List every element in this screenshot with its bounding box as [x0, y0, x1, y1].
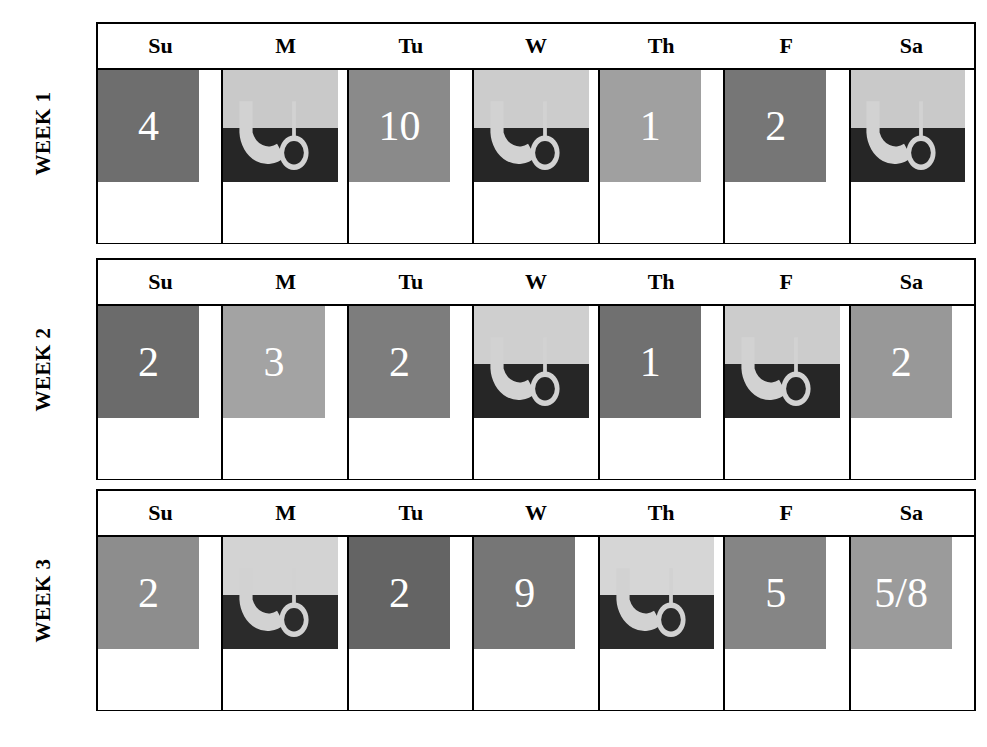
- week-label-text: WEEK 2: [30, 327, 55, 411]
- day-value: 5: [725, 537, 826, 649]
- day-swatch: 2: [98, 537, 199, 649]
- day-header-m: M: [223, 491, 348, 535]
- day-cell-sa[interactable]: [851, 70, 974, 243]
- moon-phase-glyph: [857, 99, 951, 177]
- day-value: 5/8: [851, 537, 952, 649]
- day-header-row: SuMTuWThFSa: [98, 491, 974, 537]
- day-header-m: M: [223, 24, 348, 68]
- day-cell-row: 232 1 2: [98, 306, 974, 479]
- day-swatch: 2: [851, 306, 952, 418]
- day-value: 2: [349, 537, 450, 649]
- day-swatch: 2: [725, 70, 826, 182]
- day-cell-su[interactable]: 4: [98, 70, 223, 243]
- day-header-w: W: [473, 491, 598, 535]
- day-cell-tu[interactable]: 10: [349, 70, 474, 243]
- day-swatch: 2: [349, 306, 450, 418]
- day-cell-su[interactable]: 2: [98, 306, 223, 479]
- day-header-th: Th: [599, 260, 724, 304]
- week-label: WEEK 2: [0, 258, 86, 480]
- day-swatch: 1: [600, 70, 701, 182]
- day-swatch: 5/8: [851, 537, 952, 649]
- day-header-sa: Sa: [849, 491, 974, 535]
- day-swatch: 1: [600, 306, 701, 418]
- moon-phase-icon: [851, 70, 966, 182]
- day-header-w: W: [473, 24, 598, 68]
- week-block: WEEK 2SuMTuWThFSa232 1 2: [0, 258, 987, 480]
- moon-phase-icon: [600, 537, 715, 649]
- day-value: 2: [98, 537, 199, 649]
- day-cell-m[interactable]: 3: [223, 306, 348, 479]
- moon-phase-icon: [223, 70, 338, 182]
- day-header-tu: Tu: [348, 24, 473, 68]
- day-swatch: 9: [474, 537, 575, 649]
- week-grid: SuMTuWThFSa232 1 2: [96, 258, 976, 480]
- day-header-f: F: [724, 24, 849, 68]
- day-header-su: Su: [98, 24, 223, 68]
- week-grid: SuMTuWThFSa2 29 55/8: [96, 489, 976, 711]
- day-value: 9: [474, 537, 575, 649]
- day-header-sa: Sa: [849, 260, 974, 304]
- day-header-w: W: [473, 260, 598, 304]
- day-cell-th[interactable]: [600, 537, 725, 710]
- moon-phase-glyph: [230, 99, 324, 177]
- moon-phase-icon: [725, 306, 840, 418]
- day-header-m: M: [223, 260, 348, 304]
- day-swatch: 2: [349, 537, 450, 649]
- moon-phase-icon: [474, 306, 589, 418]
- day-cell-w[interactable]: [474, 70, 599, 243]
- day-cell-w[interactable]: 9: [474, 537, 599, 710]
- week-block: WEEK 1SuMTuWThFSa4 10 12: [0, 22, 987, 244]
- day-cell-su[interactable]: 2: [98, 537, 223, 710]
- day-cell-w[interactable]: [474, 306, 599, 479]
- day-header-sa: Sa: [849, 24, 974, 68]
- day-cell-f[interactable]: 2: [725, 70, 850, 243]
- moon-phase-glyph: [481, 99, 575, 177]
- day-cell-th[interactable]: 1: [600, 70, 725, 243]
- day-header-th: Th: [599, 24, 724, 68]
- week-grid: SuMTuWThFSa4 10 12: [96, 22, 976, 244]
- day-cell-tu[interactable]: 2: [349, 537, 474, 710]
- day-cell-th[interactable]: 1: [600, 306, 725, 479]
- week-label: WEEK 1: [0, 22, 86, 244]
- day-swatch: 5: [725, 537, 826, 649]
- day-value: 1: [600, 70, 701, 182]
- day-swatch: 3: [223, 306, 324, 418]
- day-value: 2: [98, 306, 199, 418]
- day-value: 3: [223, 306, 324, 418]
- week-label-text: WEEK 1: [30, 91, 55, 175]
- moon-phase-icon: [474, 70, 589, 182]
- day-header-tu: Tu: [348, 260, 473, 304]
- day-value: 2: [725, 70, 826, 182]
- day-swatch: 4: [98, 70, 199, 182]
- day-value: 2: [349, 306, 450, 418]
- day-cell-tu[interactable]: 2: [349, 306, 474, 479]
- day-cell-m[interactable]: [223, 537, 348, 710]
- moon-phase-glyph: [230, 566, 324, 644]
- day-value: 2: [851, 306, 952, 418]
- day-cell-f[interactable]: [725, 306, 850, 479]
- figure-canvas: WEEK 1SuMTuWThFSa4 10 12 WEEK 2SuMTuWThF…: [0, 0, 987, 747]
- moon-phase-glyph: [732, 335, 826, 413]
- moon-phase-icon: [223, 537, 338, 649]
- day-cell-f[interactable]: 5: [725, 537, 850, 710]
- moon-phase-glyph: [481, 335, 575, 413]
- day-cell-row: 4 10 12: [98, 70, 974, 243]
- day-header-tu: Tu: [348, 491, 473, 535]
- week-label-text: WEEK 3: [30, 558, 55, 642]
- day-cell-sa[interactable]: 5/8: [851, 537, 974, 710]
- day-cell-sa[interactable]: 2: [851, 306, 974, 479]
- day-header-row: SuMTuWThFSa: [98, 260, 974, 306]
- week-label: WEEK 3: [0, 489, 86, 711]
- day-header-f: F: [724, 491, 849, 535]
- day-header-th: Th: [599, 491, 724, 535]
- day-header-su: Su: [98, 491, 223, 535]
- day-cell-m[interactable]: [223, 70, 348, 243]
- week-block: WEEK 3SuMTuWThFSa2 29 55/8: [0, 489, 987, 711]
- day-swatch: 2: [98, 306, 199, 418]
- day-value: 4: [98, 70, 199, 182]
- day-value: 1: [600, 306, 701, 418]
- day-header-su: Su: [98, 260, 223, 304]
- day-header-f: F: [724, 260, 849, 304]
- moon-phase-glyph: [607, 566, 701, 644]
- day-value: 10: [349, 70, 450, 182]
